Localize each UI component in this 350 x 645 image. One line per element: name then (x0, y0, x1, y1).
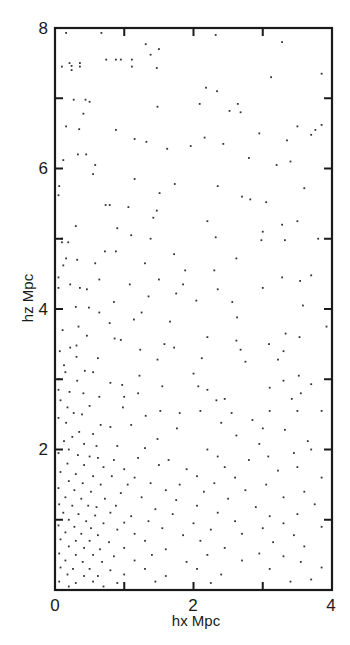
data-point (207, 336, 209, 338)
data-point (186, 468, 188, 470)
data-point (172, 513, 174, 515)
data-point (161, 527, 163, 529)
data-point (210, 582, 212, 584)
data-point (141, 312, 143, 314)
data-point (197, 385, 199, 387)
data-point (269, 387, 271, 389)
data-point (130, 424, 132, 426)
data-point (281, 224, 283, 226)
data-point (196, 475, 198, 477)
data-point (133, 319, 135, 321)
data-point (173, 347, 175, 349)
data-point (71, 65, 73, 67)
data-point (103, 586, 105, 588)
data-point (85, 154, 87, 156)
data-point (300, 392, 302, 394)
data-point (267, 456, 269, 458)
data-point (92, 173, 94, 175)
data-point (77, 154, 79, 156)
data-point (182, 284, 184, 286)
data-point (283, 522, 285, 524)
data-point (156, 210, 158, 212)
data-point (75, 554, 77, 556)
data-point (83, 392, 85, 394)
data-point (76, 345, 78, 347)
data-point (105, 59, 107, 61)
data-point (240, 111, 242, 113)
data-point (103, 466, 105, 468)
data-point (240, 349, 242, 351)
data-point (224, 466, 226, 468)
data-point (200, 410, 202, 412)
data-point (199, 103, 201, 105)
data-point (258, 133, 260, 135)
data-point (97, 575, 99, 577)
data-point (105, 204, 107, 206)
data-point (272, 541, 274, 543)
data-point (303, 187, 305, 189)
data-point (83, 575, 85, 577)
data-point (310, 274, 312, 276)
data-point (89, 568, 91, 570)
data-point (258, 443, 260, 445)
data-point (326, 326, 328, 328)
data-point (234, 477, 236, 479)
data-point (269, 410, 271, 412)
data-point (81, 414, 83, 416)
data-point (71, 505, 73, 507)
data-point (310, 449, 312, 451)
data-point (297, 220, 299, 222)
data-point (115, 129, 117, 131)
data-point (89, 405, 91, 407)
data-point (234, 520, 236, 522)
data-point (165, 489, 167, 491)
data-point (65, 371, 67, 373)
data-point (310, 383, 312, 385)
data-point (84, 370, 86, 372)
data-point (129, 284, 131, 286)
data-point (158, 48, 160, 50)
data-point (113, 555, 115, 557)
data-point (62, 159, 64, 161)
data-point (67, 463, 69, 465)
data-point (179, 412, 181, 414)
data-point (195, 300, 197, 302)
data-point (65, 32, 67, 34)
data-point (110, 569, 112, 571)
data-point (82, 482, 84, 484)
data-point (75, 582, 77, 584)
data-point (63, 440, 65, 442)
data-point (62, 512, 64, 514)
data-point (60, 567, 62, 569)
data-point (71, 436, 73, 438)
data-point (108, 541, 110, 543)
data-point (220, 422, 222, 424)
data-point (61, 66, 63, 68)
data-point (165, 575, 167, 577)
data-point (120, 492, 122, 494)
data-point (146, 141, 148, 143)
data-point (76, 259, 78, 261)
data-point (97, 457, 99, 459)
data-point (152, 217, 154, 219)
data-point (265, 484, 267, 486)
data-point (123, 522, 125, 524)
data-point (139, 375, 141, 377)
data-point (92, 433, 94, 435)
data-point (97, 357, 99, 359)
data-point (227, 498, 229, 500)
data-point (58, 553, 60, 555)
data-point (144, 262, 146, 264)
data-point (207, 389, 209, 391)
data-point (60, 399, 62, 401)
data-point (286, 140, 288, 142)
data-point (67, 241, 69, 243)
data-point (184, 270, 186, 272)
data-point (75, 473, 77, 475)
data-point (175, 293, 177, 295)
data-point (128, 206, 130, 208)
data-point (201, 357, 203, 359)
data-point (101, 32, 103, 34)
data-point (100, 424, 102, 426)
data-point (321, 410, 323, 412)
